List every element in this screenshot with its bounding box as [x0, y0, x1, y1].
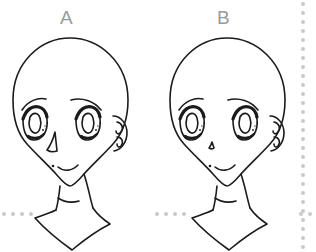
eye-left-iris-a: [29, 113, 41, 133]
guide-dot-right: [301, 11, 305, 15]
guide-dot-bottom: [20, 212, 24, 216]
guide-dot-right: [301, 110, 305, 114]
guide-dot-right: [301, 101, 305, 105]
guide-dot-right: [301, 209, 305, 213]
guide-dot-right: [301, 245, 305, 249]
guide-dot-right: [301, 164, 305, 168]
guide-dot-right: [301, 146, 305, 150]
guide-dot-bottom: [182, 212, 186, 216]
mouth-dot-a: [52, 165, 55, 168]
guide-dot-right: [301, 83, 305, 87]
ear-inner-upper-a: [116, 122, 122, 134]
eye-right-sparkle-a: [95, 129, 97, 131]
eye-left-sparkle2-b: [201, 125, 202, 126]
head-outline-a: [13, 38, 128, 186]
guide-dot-bottom: [164, 212, 168, 216]
ear-inner-upper-b: [273, 122, 279, 134]
guide-dot-right: [301, 74, 305, 78]
guide-dot-bottom: [2, 212, 6, 216]
eye-right-iris-a: [82, 113, 94, 133]
guide-dot-bottom: [173, 212, 177, 216]
figure-b-drawing: [170, 38, 285, 250]
guide-dot-right: [301, 182, 305, 186]
neck-inner-a: [58, 198, 79, 202]
nose-b: [209, 142, 214, 149]
eye-right-iris-b: [239, 113, 251, 133]
head-outline-b: [170, 38, 285, 186]
guide-dot-right: [301, 65, 305, 69]
guide-dot-right: [301, 191, 305, 195]
guide-dot-right: [301, 236, 305, 240]
eye-left-sparkle-a: [42, 129, 44, 131]
guide-dot-right: [301, 56, 305, 60]
eye-right-sparkle2-b: [254, 125, 255, 126]
guide-dot-right: [301, 218, 305, 222]
neck-inner-b: [215, 198, 236, 202]
eye-right-sparkle2-a: [97, 125, 98, 126]
guide-dot-right: [301, 128, 305, 132]
guide-dot-right: [301, 47, 305, 51]
neck-right-a: [84, 174, 93, 208]
guide-dot-right: [301, 119, 305, 123]
eye-left-sparkle-b: [199, 129, 201, 131]
neck-right-b: [241, 174, 250, 208]
figure-a-drawing: [13, 38, 128, 250]
eye-left-iris-b: [186, 113, 198, 133]
guide-dot-right: [301, 2, 305, 6]
mouth-a: [58, 165, 78, 170]
guide-dot-right: [301, 92, 305, 96]
guide-dot-right: [301, 38, 305, 42]
mouth-dot-b: [209, 165, 212, 168]
guide-dot-right: [301, 155, 305, 159]
guide-dot-right: [301, 20, 305, 24]
mouth-b: [215, 165, 235, 170]
guide-dot-bottom: [29, 212, 33, 216]
eye-left-sparkle2-a: [44, 125, 45, 126]
guide-dot-right: [301, 137, 305, 141]
guide-dot-right: [301, 227, 305, 231]
illustration-canvas: A B: [0, 0, 316, 252]
shoulders-b: [192, 208, 267, 250]
guide-dot-bottom: [155, 212, 159, 216]
guide-dot-right: [301, 29, 305, 33]
nose-a: [47, 132, 57, 152]
guide-dot-right: [301, 200, 305, 204]
guide-dot-bottom: [308, 212, 312, 216]
shoulders-a: [35, 208, 110, 250]
eye-right-sparkle-b: [252, 129, 254, 131]
guide-dot-right: [301, 173, 305, 177]
guide-dot-bottom: [11, 212, 15, 216]
